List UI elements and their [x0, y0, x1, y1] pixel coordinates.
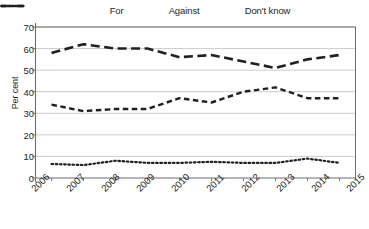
x-axis-ticks: 2006 2007 2008 2009 2010 2011 2012 2013 … [0, 0, 369, 229]
x-tick-label: 2006 [29, 171, 52, 194]
x-tick-label: 2014 [309, 171, 332, 194]
x-tick-label: 2012 [239, 171, 262, 194]
line-chart: For Against Don't know Per cent 70 60 50… [0, 0, 369, 229]
x-tick-label: 2015 [344, 171, 367, 194]
x-tick-label: 2010 [169, 171, 192, 194]
x-tick-label: 2007 [64, 171, 87, 194]
x-tick-label: 2009 [134, 171, 157, 194]
x-tick-label: 2008 [99, 171, 122, 194]
x-tick-label: 2011 [204, 172, 226, 194]
x-tick-label: 2013 [274, 171, 297, 194]
